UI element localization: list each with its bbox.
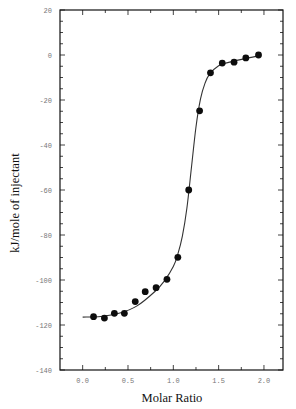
data-point [153, 284, 160, 291]
y-tick-label: -60 [39, 187, 52, 195]
data-point [164, 276, 171, 283]
data-point [219, 60, 226, 67]
data-point [196, 107, 203, 114]
y-tick-label: -140 [35, 367, 52, 375]
x-axis-title: Molar Ratio [142, 391, 203, 405]
data-point [121, 310, 128, 317]
data-point [111, 310, 118, 317]
data-point [132, 298, 139, 305]
x-tick-label: 0.5 [122, 377, 135, 385]
y-tick-label: -40 [39, 142, 52, 150]
x-tick-label: 0.0 [76, 377, 89, 385]
y-tick-label: -80 [39, 232, 52, 240]
fit-curve [83, 56, 259, 317]
y-axis-title: kJ/mole of injectant [8, 153, 22, 253]
data-point [255, 52, 262, 59]
data-point [174, 254, 181, 261]
data-point [242, 55, 249, 62]
x-axis-ticks: 0.00.51.01.52.0 [76, 10, 270, 385]
data-points [90, 52, 262, 322]
fit-line [83, 56, 259, 317]
itc-chart: 0.00.51.01.52.0 200-20-40-60-80-100-120-… [0, 0, 296, 409]
y-tick-label: 0 [48, 52, 52, 60]
data-point [207, 69, 214, 76]
x-tick-label: 1.0 [167, 377, 180, 385]
data-point [142, 288, 149, 295]
y-tick-label: -20 [39, 97, 52, 105]
y-tick-label: -120 [35, 322, 52, 330]
x-tick-label: 1.5 [212, 377, 225, 385]
data-point [101, 315, 108, 322]
data-point [231, 59, 238, 66]
data-point [185, 187, 192, 194]
x-tick-label: 2.0 [258, 377, 271, 385]
y-axis-ticks: 200-20-40-60-80-100-120-140 [35, 7, 283, 375]
y-tick-label: -100 [35, 277, 52, 285]
data-point [90, 313, 97, 320]
y-tick-label: 20 [44, 7, 52, 15]
